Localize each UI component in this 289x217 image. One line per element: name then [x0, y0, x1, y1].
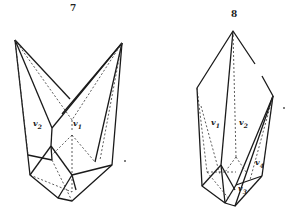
figure-7-edges [15, 40, 122, 201]
figure-8-edges [197, 31, 273, 206]
speck [283, 107, 285, 109]
speck [124, 160, 126, 162]
polyhedra-drawing [0, 0, 289, 217]
